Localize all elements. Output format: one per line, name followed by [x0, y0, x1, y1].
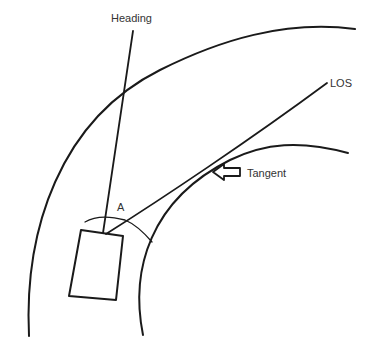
los-line [106, 83, 327, 234]
angle-arc [85, 217, 152, 242]
tangent-label: Tangent [247, 167, 286, 179]
inner-road-edge [139, 145, 348, 335]
road-diagram: Heading LOS Tangent A [0, 0, 371, 352]
vehicle [69, 230, 123, 300]
outer-road-edge [29, 27, 355, 336]
heading-label: Heading [111, 12, 152, 24]
angle-label: A [117, 201, 125, 213]
los-label: LOS [330, 77, 352, 89]
